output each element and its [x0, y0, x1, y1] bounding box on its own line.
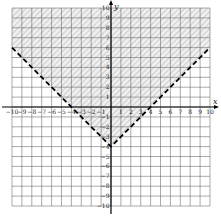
- y-tick-label: −3: [101, 133, 110, 140]
- y-tick-label: −4: [101, 143, 110, 150]
- x-tick-label: 8: [188, 108, 192, 115]
- y-tick-label: 5: [106, 54, 110, 61]
- y-tick-label: 1: [106, 93, 110, 100]
- x-tick-label: 6: [168, 108, 172, 115]
- y-tick-label: −8: [101, 182, 110, 189]
- y-tick-label: −2: [101, 123, 110, 130]
- y-tick-label: −5: [101, 153, 110, 160]
- x-tick-label: 5: [159, 108, 163, 115]
- y-tick-label: 3: [106, 73, 110, 80]
- x-tick-label: −9: [17, 108, 26, 115]
- y-tick-label: 2: [106, 83, 110, 90]
- x-tick-label: −5: [57, 108, 66, 115]
- y-tick-label: 10: [102, 4, 110, 11]
- x-tick-label: −8: [27, 108, 36, 115]
- x-tick-label: 1: [119, 108, 123, 115]
- coordinate-plane: −10−9−8−7−6−5−4−3−2−112345678910−10−9−8−…: [0, 0, 221, 217]
- x-axis-label: x: [213, 97, 218, 106]
- x-tick-label: −2: [87, 108, 96, 115]
- x-tick-label: −6: [47, 108, 56, 115]
- y-tick-label: 4: [106, 63, 110, 70]
- y-tick-label: −10: [97, 202, 110, 209]
- y-tick-label: −7: [101, 172, 110, 179]
- y-tick-label: 8: [106, 24, 110, 31]
- y-tick-label: −1: [101, 113, 110, 120]
- x-tick-label: −3: [77, 108, 86, 115]
- y-tick-label: −6: [101, 162, 110, 169]
- x-tick-label: 3: [139, 108, 143, 115]
- x-tick-label: 7: [178, 108, 182, 115]
- y-tick-label: 7: [106, 34, 110, 41]
- y-tick-label: 9: [106, 14, 110, 21]
- x-tick-label: 9: [198, 108, 202, 115]
- y-axis-label: y: [113, 2, 119, 11]
- x-tick-label: −4: [67, 108, 76, 115]
- y-arrow-icon: [109, 0, 113, 5]
- x-tick-label: 4: [149, 108, 153, 115]
- x-tick-label: −7: [37, 108, 46, 115]
- y-tick-label: −9: [101, 192, 110, 199]
- x-tick-label: 2: [129, 108, 133, 115]
- y-tick-label: 6: [106, 44, 110, 51]
- x-tick-label: 10: [206, 108, 214, 115]
